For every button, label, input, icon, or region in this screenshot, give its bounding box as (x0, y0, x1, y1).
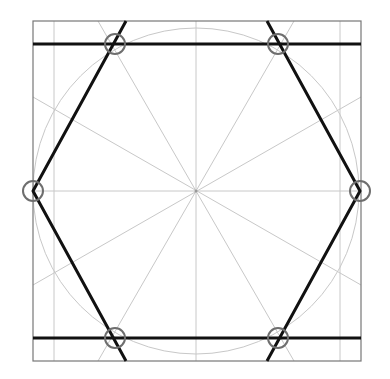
hexagon-construction-diagram (0, 0, 390, 379)
center-point (195, 190, 198, 193)
